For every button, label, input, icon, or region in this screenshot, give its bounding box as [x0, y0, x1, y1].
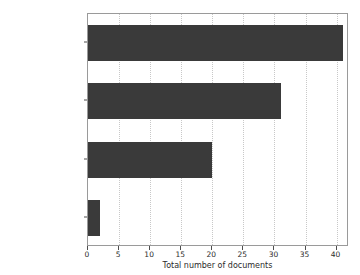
y-tick-mark [84, 42, 88, 43]
bar-chart-figure: Total number of documents ArticleProceed… [0, 0, 360, 275]
x-tick-mark [273, 246, 274, 250]
x-tick-label: 20 [207, 250, 217, 259]
x-tick-label: 35 [300, 250, 310, 259]
x-tick-mark [87, 246, 88, 250]
y-tick-mark [84, 100, 88, 101]
x-tick-mark [149, 246, 150, 250]
x-tick-label: 30 [269, 250, 279, 259]
plot-area [87, 13, 348, 246]
bar [88, 200, 100, 236]
y-tick-mark [84, 216, 88, 217]
x-tick-mark [305, 246, 306, 250]
x-tick-label: 0 [85, 250, 90, 259]
x-tick-mark [180, 246, 181, 250]
x-tick-mark [242, 246, 243, 250]
bar [88, 25, 343, 61]
x-tick-mark [118, 246, 119, 250]
x-axis-label: Total number of documents [87, 261, 348, 270]
x-tick-label: 25 [238, 250, 248, 259]
bar [88, 83, 281, 119]
x-tick-label: 5 [116, 250, 121, 259]
x-tick-mark [336, 246, 337, 250]
x-tick-label: 15 [175, 250, 185, 259]
bar [88, 142, 212, 178]
y-tick-mark [84, 158, 88, 159]
x-tick-label: 10 [144, 250, 154, 259]
x-tick-mark [211, 246, 212, 250]
x-tick-label: 40 [331, 250, 341, 259]
